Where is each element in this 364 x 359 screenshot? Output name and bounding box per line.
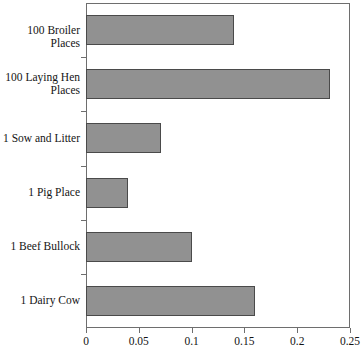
value-axis-tick-label: 0.15 <box>234 335 254 348</box>
bar <box>86 286 255 316</box>
value-axis-tick <box>350 328 351 333</box>
value-axis-tick-label: 0.2 <box>290 335 304 348</box>
bars-layer <box>86 3 350 328</box>
value-axis-tick <box>139 328 140 333</box>
category-axis-tick <box>81 220 86 221</box>
value-axis-tick <box>86 328 87 333</box>
value-axis: 00.050.10.150.20.25 <box>86 328 350 359</box>
bar-chart: 100 Broiler Places100 Laying Hen Places1… <box>0 0 364 359</box>
bar <box>86 178 128 208</box>
category-label: 100 Broiler Places <box>0 24 80 50</box>
value-axis-tick <box>297 328 298 333</box>
category-label: 100 Laying Hen Places <box>0 71 80 97</box>
category-label: 1 Sow and Litter <box>0 132 80 145</box>
bar <box>86 15 234 45</box>
category-label: 1 Beef Bullock <box>0 240 80 253</box>
value-axis-tick-label: 0.25 <box>340 335 360 348</box>
value-axis-tick <box>244 328 245 333</box>
value-axis-tick-label: 0.1 <box>184 335 198 348</box>
category-axis-tick <box>81 166 86 167</box>
bar <box>86 69 330 99</box>
category-label: 1 Dairy Cow <box>0 294 80 307</box>
bar <box>86 232 192 262</box>
category-axis-labels: 100 Broiler Places100 Laying Hen Places1… <box>0 3 82 328</box>
value-axis-tick-label: 0 <box>83 335 89 348</box>
value-axis-tick <box>192 328 193 333</box>
value-axis-tick-label: 0.05 <box>129 335 149 348</box>
bar <box>86 123 161 153</box>
category-axis-tick <box>81 57 86 58</box>
category-axis-tick <box>81 111 86 112</box>
category-axis-tick <box>81 274 86 275</box>
category-label: 1 Pig Place <box>0 186 80 199</box>
